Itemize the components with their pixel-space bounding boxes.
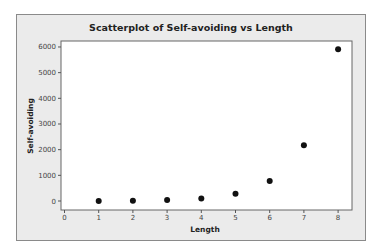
x-tick-label: 1 <box>96 214 100 222</box>
y-tick-label: 3000 <box>38 120 56 128</box>
y-tick-label: 6000 <box>38 43 56 51</box>
data-point <box>198 195 204 201</box>
data-point <box>130 198 136 204</box>
x-axis-ticks: 012345678 <box>62 210 340 222</box>
scatter-plot: 0100020003000400050006000 012345678 Leng… <box>0 0 384 252</box>
data-point <box>335 46 341 52</box>
plot-area <box>61 41 352 210</box>
x-tick-label: 8 <box>336 214 340 222</box>
x-tick-label: 5 <box>233 214 237 222</box>
y-tick-label: 0 <box>52 198 56 206</box>
x-tick-label: 4 <box>199 214 204 222</box>
data-point <box>267 178 273 184</box>
y-tick-label: 1000 <box>38 172 56 180</box>
x-tick-label: 6 <box>267 214 272 222</box>
x-tick-label: 7 <box>302 214 306 222</box>
y-tick-label: 5000 <box>38 69 56 77</box>
y-tick-label: 4000 <box>38 95 56 103</box>
y-axis-label: Self-avoiding <box>26 98 35 154</box>
data-point <box>233 191 239 197</box>
data-point <box>96 198 102 204</box>
data-point <box>301 142 307 148</box>
y-tick-label: 2000 <box>38 146 56 154</box>
x-tick-label: 2 <box>131 214 135 222</box>
data-point <box>164 197 170 203</box>
x-tick-label: 3 <box>165 214 169 222</box>
y-axis-ticks: 0100020003000400050006000 <box>38 43 61 205</box>
x-axis-label: Length <box>190 225 220 234</box>
x-tick-label: 0 <box>62 214 66 222</box>
